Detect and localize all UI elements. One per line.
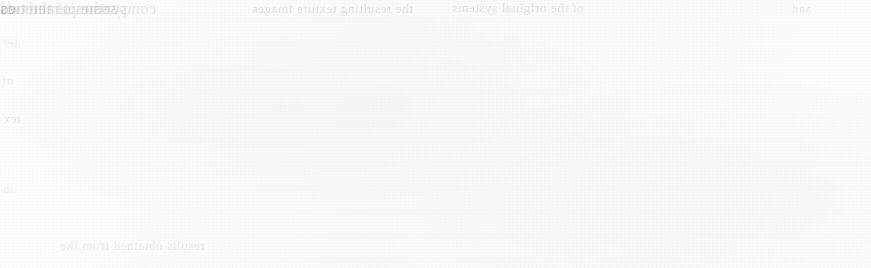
- paper-grain-texture: [0, 0, 871, 268]
- scanned-page: the resulting texture images of the orig…: [0, 0, 871, 268]
